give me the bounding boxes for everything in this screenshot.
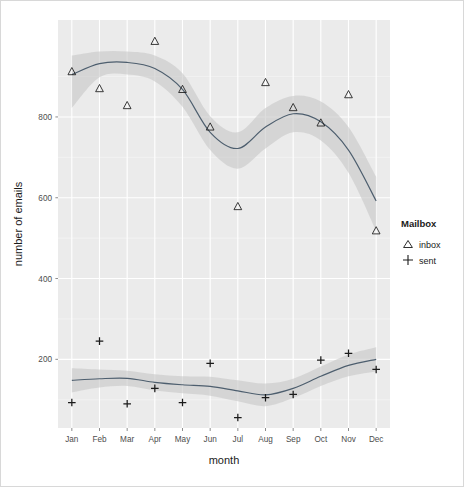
x-tick-label: Apr <box>148 435 161 444</box>
legend-item-sent[interactable]: sent <box>403 255 437 266</box>
x-tick-label: Dec <box>369 435 384 444</box>
legend-label-inbox: inbox <box>419 240 441 250</box>
legend-label-sent: sent <box>419 256 437 266</box>
legend: Mailbox inbox sent <box>401 218 441 266</box>
x-tick-label: Sep <box>286 435 301 444</box>
x-axis: JanFebMarAprMayJunJulAugSepOctNovDec <box>65 428 383 444</box>
x-tick-label: Feb <box>92 435 107 444</box>
legend-title: Mailbox <box>401 218 437 229</box>
x-tick-label: Jul <box>233 435 244 444</box>
y-tick-label: 600 <box>38 194 52 203</box>
x-tick-label: Nov <box>341 435 356 444</box>
chart-figure: 800600400200 JanFebMarAprMayJunJulAugSep… <box>0 0 465 488</box>
y-tick-label: 800 <box>38 113 52 122</box>
x-tick-label: Aug <box>258 435 273 444</box>
x-tick-label: Mar <box>120 435 134 444</box>
chart-plot-area: 800600400200 JanFebMarAprMayJunJulAugSep… <box>0 0 465 488</box>
triangle-icon <box>404 241 413 248</box>
y-tick-label: 200 <box>38 355 52 364</box>
legend-item-inbox[interactable]: inbox <box>404 240 441 250</box>
plus-icon <box>403 255 413 265</box>
y-tick-label: 400 <box>38 275 52 284</box>
y-axis-title: number of emails <box>12 181 24 266</box>
x-tick-label: Jun <box>204 435 218 444</box>
y-axis: 800600400200 <box>38 113 58 364</box>
x-tick-label: Oct <box>314 435 327 444</box>
x-tick-label: May <box>175 435 191 444</box>
x-tick-label: Jan <box>65 435 79 444</box>
x-axis-title: month <box>209 454 240 466</box>
